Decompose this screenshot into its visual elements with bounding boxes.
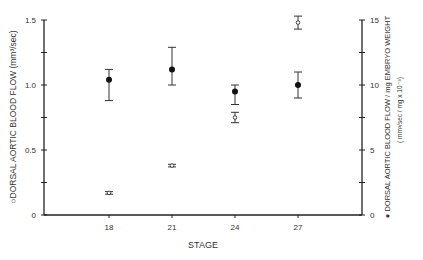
- y-right-tick-label: 0: [370, 211, 375, 220]
- data-points: [105, 16, 302, 195]
- open-data-point: [231, 112, 239, 122]
- marker-filled: [295, 82, 301, 88]
- x-tick-label: 27: [294, 223, 303, 232]
- y-left-tick-label: 1.0: [25, 81, 37, 90]
- filled-data-point: [294, 72, 302, 98]
- marker-open: [107, 191, 111, 195]
- y-left-tick-label: 0.5: [25, 146, 37, 155]
- x-tick-label: 21: [168, 223, 177, 232]
- marker-open: [170, 164, 174, 168]
- marker-filled: [169, 66, 175, 72]
- marker-open: [233, 116, 237, 120]
- y-axis-left-label: ○DORSAL AORTIC BLOOD FLOW (mm³/sec): [8, 30, 18, 203]
- y-right-tick-label: 5: [370, 146, 375, 155]
- axes: 00.51.01.505101518212427: [25, 16, 380, 232]
- marker-filled: [232, 89, 238, 95]
- filled-data-point: [105, 69, 113, 100]
- y-left-tick-label: 0: [32, 211, 37, 220]
- y-axis-right-label: ● DORSAL AORTIC BLOOD FLOW / mg EMBRYO W…: [383, 15, 392, 218]
- y-right-tick-label: 15: [370, 16, 379, 25]
- marker-open: [296, 21, 300, 25]
- x-axis-label: STAGE: [188, 240, 218, 250]
- y-axis-right-units: ( mm³/sec / mg x 10⁻³): [396, 77, 404, 143]
- x-tick-label: 24: [231, 223, 240, 232]
- filled-data-point: [231, 85, 239, 105]
- y-right-tick-label: 10: [370, 81, 379, 90]
- x-tick-label: 18: [105, 223, 114, 232]
- filled-data-point: [168, 47, 176, 85]
- y-left-tick-label: 1.5: [25, 16, 37, 25]
- open-data-point: [168, 164, 176, 168]
- open-data-point: [105, 191, 113, 195]
- chart: 00.51.01.505101518212427 STAGE ○DORSAL A…: [0, 0, 423, 260]
- marker-filled: [106, 77, 112, 83]
- open-data-point: [294, 16, 302, 29]
